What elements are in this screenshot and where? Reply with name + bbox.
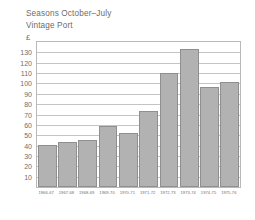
x-axis-labels: 1966-671967-681968-691969-701970-711971-…: [36, 190, 241, 204]
chart-title-line-1: Seasons October–July: [26, 8, 111, 20]
bar-series: [37, 42, 240, 187]
bar: [38, 145, 57, 187]
x-axis-tick-label: 1970-71: [117, 190, 137, 195]
y-axis-tick-label: 60: [24, 121, 32, 128]
y-axis-tick-label: 50: [24, 132, 32, 139]
plot-area: 130120110100908070605040302010: [36, 41, 241, 188]
x-axis-tick-label: 1974-75: [198, 190, 218, 195]
bar: [119, 133, 138, 187]
y-axis-tick-label: 120: [20, 59, 32, 66]
x-axis-tick-label: 1971-72: [138, 190, 158, 195]
y-axis-tick-label: 110: [21, 70, 32, 77]
x-axis-tick-label: 1969-70: [97, 190, 117, 195]
y-axis-tick-label: 70: [24, 111, 32, 118]
chart-title-line-2: Vintage Port: [26, 20, 111, 32]
x-axis-tick-label: 1968-69: [77, 190, 97, 195]
x-axis-tick-label: 1975-76: [219, 190, 239, 195]
y-axis-unit-label: £: [26, 33, 30, 42]
x-axis-tick-label: 1966-67: [36, 190, 56, 195]
chart-figure: Seasons October–July Vintage Port £ 1301…: [0, 0, 255, 220]
y-axis-tick-label: 30: [24, 152, 32, 159]
x-axis-tick-label: 1972-73: [158, 190, 178, 195]
y-axis-tick-label: 10: [24, 173, 32, 180]
bar: [220, 82, 239, 187]
y-axis-tick-label: 90: [24, 90, 32, 97]
chart-title-block: Seasons October–July Vintage Port: [26, 8, 111, 32]
bar: [180, 49, 199, 187]
bar: [160, 73, 179, 187]
x-axis-tick-label: 1967-68: [56, 190, 76, 195]
x-axis-tick-label: 1973-74: [178, 190, 198, 195]
y-axis-tick-label: 80: [24, 101, 32, 108]
y-axis-tick-label: 100: [20, 80, 32, 87]
bar: [58, 142, 77, 187]
bar: [139, 111, 158, 187]
bar: [99, 126, 118, 187]
y-axis-tick-label: 40: [24, 142, 32, 149]
y-axis-tick-label: 130: [20, 49, 32, 56]
bar: [200, 87, 219, 187]
y-axis-tick-label: 20: [24, 163, 32, 170]
bar: [78, 140, 97, 187]
